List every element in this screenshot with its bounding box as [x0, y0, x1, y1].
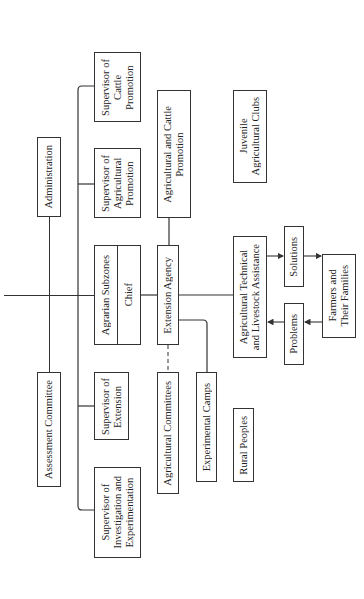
agrarian-chief-label: Chief [123, 283, 135, 306]
supervisor-cattle-label: Supervisor of Cattle Promotion [100, 59, 136, 116]
juvenile-clubs-label: Juvenile Agricultural Clubs [238, 97, 262, 175]
rural-peoples-box: Rural Peoples [233, 408, 254, 482]
assessment-committee-label: Assessment Committee [43, 380, 55, 479]
problems-box: Problems [284, 303, 304, 365]
rural-peoples-label: Rural Peoples [238, 416, 250, 475]
agricultural-committees-box: Agricultural Committees [157, 372, 179, 494]
agrarian-subzones-label: Agrarian Subzones [100, 255, 112, 335]
ag-cattle-promotion-label: Agricultural and Cattle Promotion [162, 106, 186, 203]
farmers-box: Farmers and Their Families [322, 254, 356, 338]
technical-assistance-label: Agricultural Technical and Livestock Ass… [238, 244, 262, 350]
supervisor-investigation-label: Supervisor of Investigation and Experime… [100, 476, 136, 549]
farmers-label: Farmers and Their Families [327, 265, 351, 327]
agrarian-subzones-section: Agrarian Subzones [95, 246, 118, 344]
supervisor-extension-label: Supervisor of Extension [100, 378, 124, 435]
problems-label: Problems [288, 314, 300, 354]
supervisor-agricultural-box: Supervisor of Agricultural Promotion [94, 148, 141, 218]
ag-cattle-promotion-box: Agricultural and Cattle Promotion [157, 90, 191, 218]
experimental-camps-label: Experimental Camps [201, 383, 213, 471]
supervisor-cattle-box: Supervisor of Cattle Promotion [94, 52, 141, 122]
experimental-camps-box: Experimental Camps [196, 372, 217, 482]
administration-label: Administration [43, 145, 55, 209]
agrarian-subzones-box: Agrarian Subzones Chief [94, 245, 141, 345]
supervisor-extension-box: Supervisor of Extension [94, 372, 129, 440]
agrarian-chief-section: Chief [118, 246, 140, 344]
extension-agency-label: Extension Agency [162, 257, 174, 334]
solutions-box: Solutions [284, 226, 304, 287]
supervisor-agricultural-label: Supervisor of Agricultural Promotion [100, 155, 136, 212]
technical-assistance-box: Agricultural Technical and Livestock Ass… [233, 236, 267, 358]
juvenile-clubs-box: Juvenile Agricultural Clubs [233, 90, 267, 183]
assessment-committee-box: Assessment Committee [37, 372, 61, 487]
administration-box: Administration [37, 137, 61, 217]
extension-agency-box: Extension Agency [157, 245, 179, 345]
agricultural-committees-label: Agricultural Committees [162, 381, 174, 486]
solutions-label: Solutions [288, 237, 300, 277]
supervisor-investigation-box: Supervisor of Investigation and Experime… [94, 467, 141, 558]
